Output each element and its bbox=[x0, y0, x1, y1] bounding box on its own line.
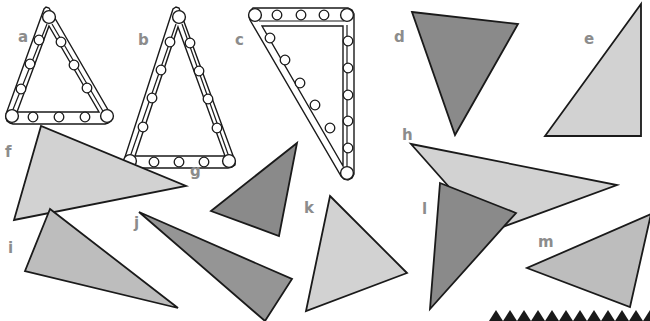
strip-triangle bbox=[503, 310, 517, 321]
shape-a-hole bbox=[56, 37, 66, 47]
shape-c-hole bbox=[265, 33, 275, 43]
shape-label-b: b bbox=[138, 31, 149, 49]
shape-c-hole bbox=[343, 63, 353, 73]
shape-b-hole bbox=[212, 123, 222, 133]
strip-triangle bbox=[531, 310, 545, 321]
shape-a-hole bbox=[82, 83, 92, 93]
shape-b-hole bbox=[147, 93, 157, 103]
shape-c-hole-corner-topright bbox=[341, 9, 354, 22]
shape-label-e: e bbox=[584, 30, 594, 48]
shape-c-hole bbox=[310, 100, 320, 110]
strip-triangle bbox=[489, 310, 503, 321]
shape-a-hole bbox=[80, 112, 90, 122]
shape-label-d: d bbox=[394, 28, 405, 46]
strip-triangle bbox=[545, 310, 559, 321]
shape-c-hole bbox=[325, 123, 335, 133]
shape-label-a: a bbox=[18, 28, 28, 46]
shape-label-j: j bbox=[133, 214, 139, 232]
bottom-triangle-strip bbox=[489, 310, 650, 321]
shape-label-m: m bbox=[538, 233, 554, 251]
shape-b-hole bbox=[194, 66, 204, 76]
shape-label-h: h bbox=[402, 126, 413, 144]
shape-c-hole bbox=[319, 10, 329, 20]
shape-c-hole-corner-bottom bbox=[341, 167, 354, 180]
strip-triangle bbox=[587, 310, 601, 321]
shape-a-hole bbox=[69, 60, 79, 70]
triangle-worksheet-figure: a b bbox=[0, 0, 650, 321]
shape-c-hole bbox=[295, 78, 305, 88]
shape-c-hole bbox=[343, 90, 353, 100]
shape-d-solid-triangle[interactable]: d bbox=[394, 12, 518, 135]
shape-k-polygon bbox=[306, 196, 407, 311]
shape-c-hole bbox=[343, 36, 353, 46]
strip-triangle bbox=[643, 310, 650, 321]
shape-b-hole bbox=[174, 157, 184, 167]
shape-a-hole bbox=[34, 35, 44, 45]
shape-b-hole-corner-right bbox=[223, 155, 236, 168]
shape-b-hole bbox=[156, 65, 166, 75]
strip-triangle bbox=[517, 310, 531, 321]
shape-c-hole bbox=[343, 116, 353, 126]
shape-e-solid-triangle[interactable]: e bbox=[545, 4, 641, 136]
shape-c-hole-corner-topleft bbox=[249, 9, 262, 22]
shape-b-hole bbox=[185, 38, 195, 48]
shape-c-inner-cutout bbox=[262, 26, 343, 166]
shape-m-polygon bbox=[527, 214, 650, 307]
shape-label-c: c bbox=[235, 31, 244, 49]
shape-c-hole bbox=[272, 10, 282, 20]
shape-d-polygon bbox=[412, 12, 518, 135]
shape-b-hole bbox=[149, 157, 159, 167]
shape-b-hole bbox=[138, 122, 148, 132]
shape-a-hole-corner-left bbox=[6, 110, 19, 123]
shape-k-solid-triangle[interactable]: k bbox=[304, 196, 407, 311]
shape-c-hole bbox=[280, 55, 290, 65]
strip-triangle bbox=[573, 310, 587, 321]
shape-a-hole bbox=[16, 84, 26, 94]
figure-canvas: a b bbox=[0, 0, 650, 321]
shape-label-f: f bbox=[5, 143, 12, 161]
shape-c-hole bbox=[296, 10, 306, 20]
shape-b-hole bbox=[165, 37, 175, 47]
strip-triangle bbox=[629, 310, 643, 321]
shape-b-hole-corner-top bbox=[173, 11, 186, 24]
shape-a-perforated-triangle[interactable]: a bbox=[6, 7, 114, 124]
shape-label-g: g bbox=[190, 162, 201, 180]
shape-label-k: k bbox=[304, 199, 315, 217]
shape-label-l: l bbox=[422, 200, 427, 218]
shape-a-hole-corner-top bbox=[43, 11, 56, 24]
shape-a-hole bbox=[25, 59, 35, 69]
strip-triangle bbox=[559, 310, 573, 321]
shape-b-perforated-triangle[interactable]: b bbox=[124, 7, 236, 168]
strip-triangle bbox=[615, 310, 629, 321]
shape-a-hole bbox=[28, 112, 38, 122]
shape-c-hole bbox=[343, 143, 353, 153]
strip-triangle bbox=[601, 310, 615, 321]
shape-a-hole bbox=[54, 112, 64, 122]
shape-e-polygon bbox=[545, 4, 641, 136]
shape-m-solid-triangle[interactable]: m bbox=[527, 214, 650, 307]
shape-b-hole bbox=[203, 94, 213, 104]
shape-label-i: i bbox=[8, 239, 13, 257]
shape-a-hole-corner-right bbox=[101, 110, 114, 123]
